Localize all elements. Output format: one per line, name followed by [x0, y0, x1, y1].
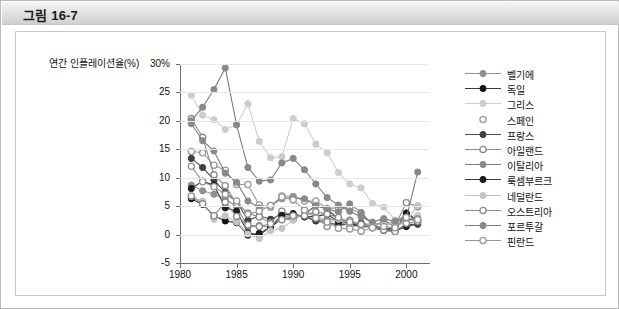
data-point — [245, 198, 251, 204]
x-axis-line — [180, 263, 430, 264]
legend-marker-icon — [463, 172, 503, 187]
y-tick-label: 20 — [130, 115, 170, 126]
data-point — [200, 179, 206, 185]
data-point — [301, 196, 307, 202]
y-axis-label: 연간 인플레이션율(%) — [49, 55, 139, 70]
data-point — [392, 225, 398, 231]
legend-item-룩셈부르크[interactable]: 룩셈부르크 — [463, 172, 603, 187]
data-point — [279, 217, 285, 223]
data-point — [347, 208, 353, 214]
legend-label: 핀란드 — [507, 234, 534, 249]
x-tick-label: 2000 — [386, 269, 426, 280]
data-point — [245, 164, 251, 170]
legend-item-포르투갈[interactable]: 포르투갈 — [463, 218, 603, 233]
data-point — [267, 221, 273, 227]
data-point — [233, 179, 239, 185]
legend-item-벨기에[interactable]: 벨기에 — [463, 66, 603, 81]
chart-panel: 연간 인플레이션율(%) 30%2520151050-5198019851990… — [15, 31, 606, 296]
data-point — [222, 213, 228, 219]
legend-label: 프랑스 — [507, 128, 534, 143]
legend-label: 오스트리아 — [507, 204, 552, 219]
data-point — [301, 207, 307, 213]
figure-frame: 그림 16-7 연간 인플레이션율(%) 30%2520151050-51980… — [0, 0, 619, 309]
legend-label: 스페인 — [507, 113, 534, 128]
data-point — [358, 185, 364, 191]
data-point — [200, 164, 206, 170]
x-tick-mark — [350, 264, 351, 268]
data-point — [200, 150, 206, 156]
y-tick-label: 15 — [130, 143, 170, 154]
data-point — [222, 65, 228, 71]
legend-item-아일랜드[interactable]: 아일랜드 — [463, 142, 603, 157]
legend-label: 이탈리아 — [507, 158, 543, 173]
data-point — [403, 200, 409, 206]
data-point — [256, 235, 262, 241]
data-point — [222, 183, 228, 189]
legend-item-핀란드[interactable]: 핀란드 — [463, 233, 603, 248]
y-tick-mark — [176, 64, 180, 65]
data-point — [200, 138, 206, 144]
gridline — [180, 149, 429, 150]
legend-label: 아일랜드 — [507, 143, 543, 158]
legend-marker-icon — [463, 233, 503, 248]
legend-marker-icon — [463, 218, 503, 233]
data-point — [358, 228, 364, 234]
plot-area — [180, 64, 429, 263]
legend-marker-icon — [463, 127, 503, 142]
data-point — [279, 225, 285, 231]
y-tick-mark — [176, 149, 180, 150]
legend-item-그리스[interactable]: 그리스 — [463, 96, 603, 111]
y-tick-mark — [176, 121, 180, 122]
data-point — [211, 213, 217, 219]
data-point — [245, 222, 251, 228]
data-point — [369, 225, 375, 231]
data-point — [301, 167, 307, 173]
data-point — [200, 188, 206, 194]
legend-marker-icon — [463, 157, 503, 172]
data-point — [335, 225, 341, 231]
data-point — [324, 211, 330, 217]
x-tick-label: 1980 — [160, 269, 200, 280]
data-point — [324, 219, 330, 225]
data-point — [324, 195, 330, 201]
data-point — [233, 198, 239, 204]
x-tick-mark — [406, 264, 407, 268]
figure-title: 그림 16-7 — [23, 5, 78, 24]
data-point — [381, 224, 387, 230]
data-point — [290, 213, 296, 219]
y-tick-mark — [176, 178, 180, 179]
data-point — [233, 213, 239, 219]
y-tick-label: -5 — [130, 257, 170, 268]
data-point — [233, 122, 239, 128]
legend-item-오스트리아[interactable]: 오스트리아 — [463, 203, 603, 218]
plot-wrapper: 연간 인플레이션율(%) 30%2520151050-5198019851990… — [16, 32, 607, 297]
data-point — [211, 191, 217, 197]
gridline — [180, 235, 429, 236]
data-point — [256, 178, 262, 184]
data-point — [188, 163, 194, 169]
data-point — [279, 154, 285, 160]
legend-item-스페인[interactable]: 스페인 — [463, 112, 603, 127]
data-point — [245, 101, 251, 107]
legend-item-독일[interactable]: 독일 — [463, 81, 603, 96]
legend-item-이탈리아[interactable]: 이탈리아 — [463, 157, 603, 172]
legend-marker-icon — [463, 66, 503, 81]
data-point — [313, 181, 319, 187]
data-point — [256, 224, 262, 230]
legend-item-네덜란드[interactable]: 네덜란드 — [463, 188, 603, 203]
data-point — [324, 150, 330, 156]
legend-label: 독일 — [507, 82, 525, 97]
data-point — [335, 214, 341, 220]
data-point — [222, 191, 228, 197]
data-point — [347, 219, 353, 225]
data-point — [211, 117, 217, 123]
gridline — [180, 206, 429, 207]
legend-item-프랑스[interactable]: 프랑스 — [463, 127, 603, 142]
gridline — [180, 92, 429, 93]
data-point — [347, 226, 353, 232]
data-point — [347, 181, 353, 187]
x-tick-label: 1985 — [217, 269, 257, 280]
data-point — [245, 211, 251, 217]
legend-marker-icon — [463, 188, 503, 203]
y-tick-mark — [176, 92, 180, 93]
